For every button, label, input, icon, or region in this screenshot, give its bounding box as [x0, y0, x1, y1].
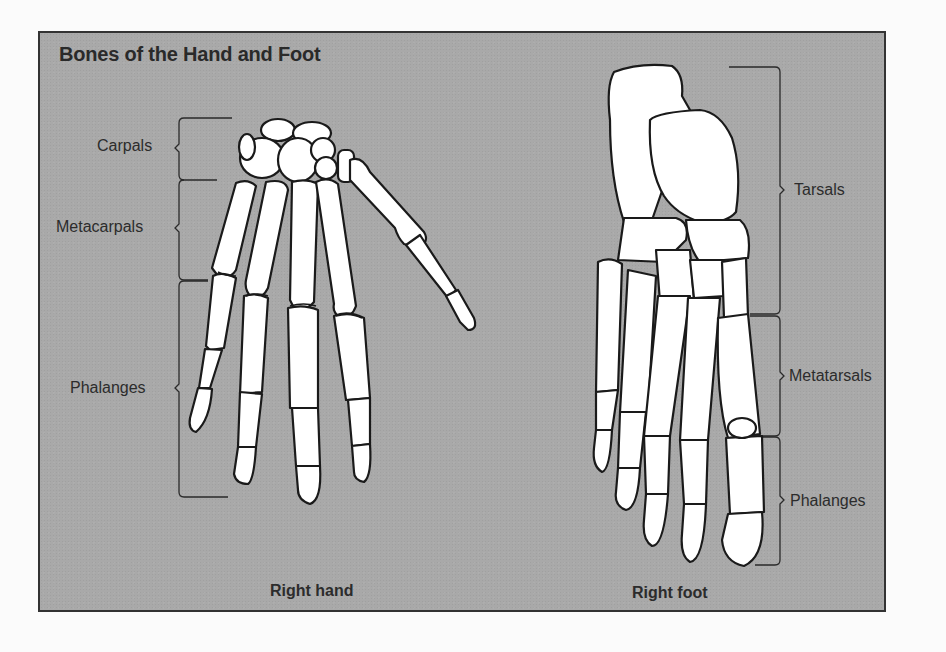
hand-caption: Right hand: [270, 582, 354, 600]
foot-label-tarsals: Tarsals: [794, 181, 845, 199]
hand-label-metacarpals: Metacarpals: [56, 218, 143, 236]
right-foot-skeleton: [594, 65, 764, 566]
hand-label-phalanges: Phalanges: [70, 379, 146, 397]
foot-label-phalanges: Phalanges: [790, 492, 866, 510]
foot-caption: Right foot: [632, 584, 708, 602]
bones-illustration: [0, 0, 946, 652]
right-hand-skeleton: [190, 119, 476, 504]
hand-label-carpals: Carpals: [97, 137, 152, 155]
foot-label-metatarsals: Metatarsals: [789, 367, 872, 385]
